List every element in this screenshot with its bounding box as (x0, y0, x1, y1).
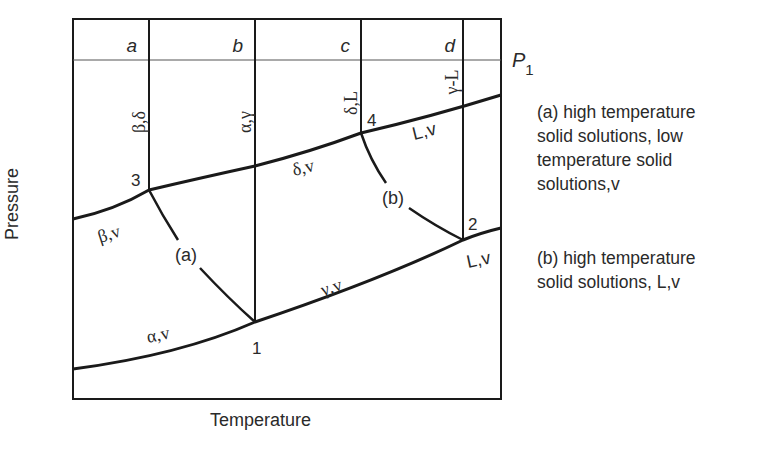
legend-a-line: solid solutions, low (537, 124, 766, 148)
plot-frame (73, 19, 501, 399)
lower-vapor-curve (73, 228, 501, 369)
column-label-c: c (341, 35, 351, 56)
column-label-a: a (126, 35, 137, 56)
region-delta-v: δ,v (290, 155, 316, 180)
legend-a-line: (a) high temperature (537, 100, 766, 124)
curve-b-lower (409, 208, 463, 240)
curve-label-b: (b) (382, 188, 404, 208)
region-alpha-v: α,v (145, 323, 172, 347)
isobar-label: P1 (512, 49, 534, 78)
label-gamma-L: γ-L (442, 70, 462, 96)
legend-b: (b) high temperature solid solutions, L,… (537, 246, 766, 294)
legend-b-line: solid solutions, L,v (537, 270, 766, 294)
label-beta-delta: β,δ (129, 111, 149, 133)
curve-a-lower (200, 268, 255, 322)
legend-a: (a) high temperature solid solutions, lo… (537, 100, 766, 196)
region-gamma-v: γ,v (317, 274, 345, 300)
point-4: 4 (367, 111, 376, 130)
region-L-v-upper: L,v (410, 119, 438, 144)
x-axis-label: Temperature (210, 410, 311, 431)
curve-a-upper (149, 190, 178, 240)
curve-label-a: (a) (175, 245, 197, 265)
legend-a-line: solutions,v (537, 172, 766, 196)
label-alpha-gamma: α,γ (235, 111, 255, 133)
legend-a-line: temperature solid (537, 148, 766, 172)
column-label-b: b (232, 35, 243, 56)
point-1: 1 (252, 339, 261, 358)
point-2: 2 (468, 215, 477, 234)
column-label-d: d (444, 35, 456, 56)
y-axis-label: Pressure (2, 168, 23, 240)
curve-b-upper (361, 133, 386, 183)
phase-diagram: a b c d P1 β,δ α,γ δ,L γ-L 1 2 3 4 β,v α… (0, 0, 766, 457)
point-3: 3 (131, 171, 140, 190)
label-delta-L: δ,L (341, 91, 361, 115)
region-L-v-lower: L,v (465, 247, 493, 272)
region-beta-v: β,v (95, 221, 123, 247)
legend-b-line: (b) high temperature (537, 246, 766, 270)
